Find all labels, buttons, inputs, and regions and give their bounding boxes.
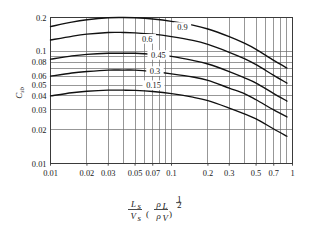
grid-lines [51, 18, 293, 164]
x-title-numerator-base: L [130, 199, 136, 209]
y-tick-label: 0.05 [32, 81, 47, 90]
curve-label-0-6: 0.6 [142, 35, 152, 44]
x-title-denominator-sub: s [138, 213, 142, 223]
curve-label-0-15: 0.15 [146, 81, 161, 90]
y-tick-label: 0.1 [36, 47, 46, 56]
y-tick-label: 0.03 [32, 106, 47, 115]
right-paren: ) [169, 209, 172, 219]
x-tick-label: 0.2 [203, 169, 213, 178]
x-tick-label: 0.02 [80, 169, 95, 178]
x-tick-label: 0.01 [43, 169, 58, 178]
y-tick-label: 0.2 [36, 14, 46, 23]
curve-label-0-9: 0.9 [177, 23, 187, 32]
curve-label-0-3: 0.3 [150, 67, 160, 76]
x-tick-label: 0.7 [269, 169, 279, 178]
x-title-numerator-sub: s [138, 201, 142, 211]
curve-label-0-45: 0.45 [151, 51, 166, 60]
x-tick-label: 0.1 [166, 169, 176, 178]
y-axis-title-sub: sb [18, 87, 25, 93]
chart-canvas: 0.010.020.030.050.070.10.20.30.50.71 0.2… [0, 0, 312, 236]
chart-figure: 0.010.020.030.050.070.10.20.30.50.71 0.2… [0, 0, 312, 236]
x-tick-label: 0.03 [101, 169, 116, 178]
y-tick-label: 0.06 [32, 72, 47, 81]
left-paren: ( [146, 209, 149, 219]
x-title-rho-v-base: ρ [156, 211, 162, 221]
y-tick-label: 0.08 [32, 58, 47, 67]
x-title-exponent-denominator: 2 [177, 200, 182, 210]
y-tick-label: 0.01 [32, 160, 47, 169]
x-tick-label: 0.05 [128, 169, 143, 178]
x-title-rho-l-sub: L [162, 201, 168, 211]
x-tick-label: 1 [290, 169, 294, 178]
y-tick-label: 0.04 [32, 92, 47, 101]
x-tick-label: 0.07 [145, 169, 160, 178]
y-tick-label: 0.02 [32, 126, 47, 135]
x-title-rho-l-base: ρ [156, 199, 162, 209]
x-tick-label: 0.5 [251, 169, 261, 178]
x-tick-label: 0.3 [224, 169, 234, 178]
